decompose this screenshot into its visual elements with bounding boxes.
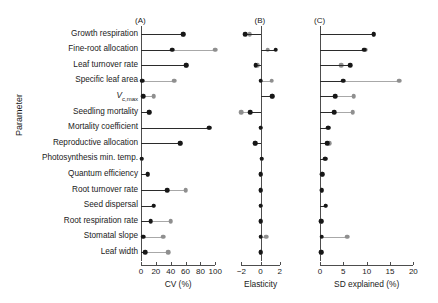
- x-axis-tick-label: 0: [139, 267, 143, 276]
- data-point: [184, 63, 189, 68]
- x-axis-tick: [261, 262, 262, 265]
- x-axis-tick: [156, 262, 157, 265]
- data-point: [147, 110, 152, 115]
- data-point: [178, 141, 183, 146]
- category-label: Leaf width: [0, 248, 140, 256]
- data-point: [258, 219, 263, 224]
- data-point: [259, 157, 264, 162]
- x-axis-tick: [241, 262, 242, 265]
- data-point: [258, 250, 263, 255]
- connector-line: [320, 50, 364, 51]
- data-point: [258, 188, 263, 193]
- x-axis-tick: [320, 262, 321, 265]
- x-axis-tick-label: 15: [386, 267, 395, 276]
- category-label: Fine-root allocation: [0, 45, 140, 53]
- x-axis-tick: [186, 262, 187, 265]
- x-axis-title: CV (%): [165, 279, 192, 289]
- data-point: [166, 250, 171, 255]
- data-point: [165, 188, 170, 193]
- x-axis-tick: [390, 262, 391, 265]
- data-point: [207, 125, 212, 130]
- x-axis-tick-label: 0: [318, 267, 322, 276]
- data-point: [320, 188, 325, 193]
- data-point: [269, 79, 274, 84]
- data-point: [320, 172, 325, 177]
- x-axis-tick: [141, 262, 142, 265]
- category-label: Stomatal slope: [0, 232, 140, 240]
- category-label: Seedling mortality: [0, 108, 140, 116]
- data-point: [161, 235, 166, 240]
- category-label: Specific leaf area: [0, 76, 140, 84]
- data-point: [320, 235, 325, 240]
- x-axis-tick-label: 100: [209, 267, 222, 276]
- data-point: [258, 79, 263, 84]
- data-point: [319, 219, 324, 224]
- connector-line: [141, 143, 180, 144]
- x-axis-line: [320, 265, 413, 266]
- data-point: [141, 94, 146, 99]
- data-point: [239, 110, 244, 115]
- data-point: [323, 203, 328, 208]
- connector-line: [141, 128, 209, 129]
- data-point: [371, 32, 376, 37]
- x-axis-tick-label: 80: [196, 267, 205, 276]
- figure-canvas: Parameter Growth respirationFine-root al…: [0, 0, 438, 303]
- x-axis-tick-label: 40: [166, 267, 175, 276]
- data-point: [351, 94, 356, 99]
- data-point: [148, 219, 153, 224]
- data-point: [168, 219, 173, 224]
- connector-line: [320, 81, 343, 82]
- data-point: [332, 110, 337, 115]
- data-point: [243, 32, 248, 37]
- data-point: [345, 235, 350, 240]
- category-label: Root respiration rate: [0, 217, 140, 225]
- x-axis-tick: [215, 262, 216, 265]
- x-axis-tick-label: −2: [237, 267, 246, 276]
- x-axis-line: [241, 265, 279, 266]
- connector-line: [141, 190, 167, 191]
- data-point: [170, 47, 175, 52]
- data-point: [270, 94, 275, 99]
- category-label: Growth respiration: [0, 30, 140, 38]
- connector-line: [141, 81, 174, 82]
- data-point: [319, 250, 324, 255]
- data-point: [145, 172, 150, 177]
- data-point: [139, 157, 144, 162]
- data-point: [151, 94, 156, 99]
- x-axis-tick-label: 2: [277, 267, 281, 276]
- x-axis-tick: [343, 262, 344, 265]
- x-axis-tick-label: 5: [341, 267, 345, 276]
- data-point: [141, 235, 146, 240]
- category-label: Root turnover rate: [0, 186, 140, 194]
- data-point: [333, 94, 338, 99]
- data-point: [264, 235, 269, 240]
- data-point: [341, 79, 346, 84]
- connector-line: [320, 65, 350, 66]
- data-point: [348, 63, 353, 68]
- x-axis-title: SD explained (%): [334, 279, 399, 289]
- category-label: Vc,max: [0, 92, 140, 102]
- x-axis-tick-label: 20: [409, 267, 418, 276]
- x-axis-tick-label: 0: [258, 267, 262, 276]
- x-axis-tick: [280, 262, 281, 265]
- data-point: [151, 203, 156, 208]
- data-point: [326, 125, 331, 130]
- data-point: [254, 63, 259, 68]
- x-axis-tick: [200, 262, 201, 265]
- x-axis-tick: [171, 262, 172, 265]
- data-point: [140, 79, 145, 84]
- data-point: [397, 79, 402, 84]
- data-point: [181, 32, 186, 37]
- data-point: [323, 157, 328, 162]
- x-axis-title: Elasticity: [244, 279, 277, 289]
- connector-line: [320, 34, 374, 35]
- panel-title-c: (C): [314, 16, 325, 25]
- data-point: [183, 188, 188, 193]
- panel-title-a: (A): [135, 16, 146, 25]
- data-point: [143, 250, 148, 255]
- data-point: [350, 110, 355, 115]
- data-point: [172, 79, 177, 84]
- category-label: Seed dispersal: [0, 201, 140, 209]
- x-axis-tick-label: 10: [362, 267, 371, 276]
- category-label: Leaf turnover rate: [0, 61, 140, 69]
